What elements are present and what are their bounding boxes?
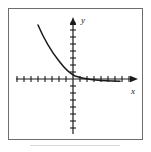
x-axis-label: x [130, 86, 135, 96]
coordinate-plot: y x [0, 0, 151, 152]
exponential-decay-curve [38, 25, 120, 81]
y-axis-label: y [80, 15, 85, 25]
scan-artifact-line [30, 145, 120, 146]
y-axis-arrowhead [70, 17, 76, 25]
figure-root: y x [0, 0, 151, 152]
x-axis-arrowhead [130, 76, 138, 82]
